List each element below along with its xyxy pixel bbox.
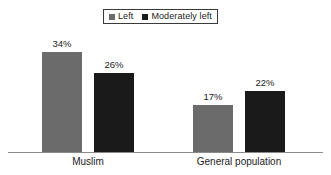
bar (94, 73, 134, 152)
bar (245, 91, 285, 152)
bar-value-label: 26% (94, 60, 134, 70)
bar-value-label: 17% (193, 92, 233, 102)
bar-chart: Left Moderately left 34% 26% 17% 22% Mus… (0, 0, 331, 175)
category-label-muslim: Muslim (43, 156, 133, 168)
axis-baseline (8, 152, 323, 153)
plot-area: 34% 26% 17% 22% (0, 0, 331, 175)
bar (42, 52, 82, 152)
category-label-general-population: General population (184, 156, 294, 168)
bar (193, 105, 233, 152)
bar-value-label: 34% (42, 39, 82, 49)
bar-value-label: 22% (245, 78, 285, 88)
